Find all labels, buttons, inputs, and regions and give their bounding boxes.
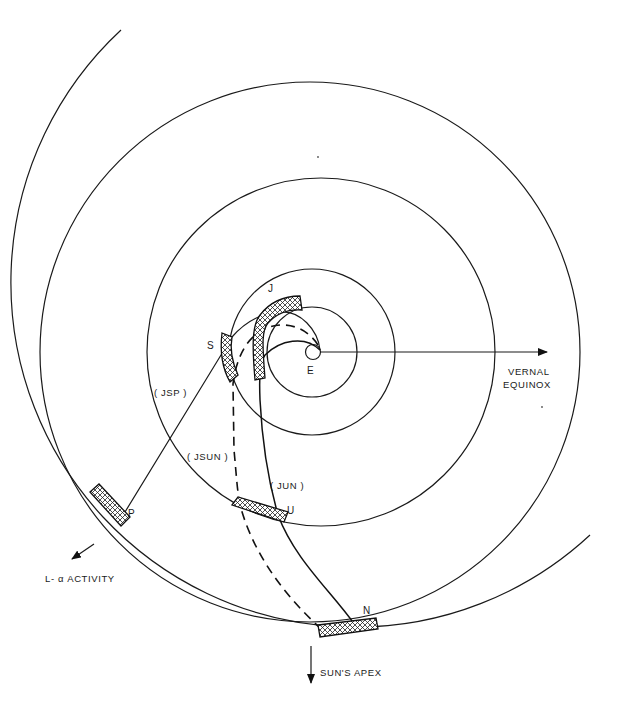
label-s: S xyxy=(207,340,214,351)
stations xyxy=(90,296,378,637)
speck xyxy=(317,156,319,158)
trajectories xyxy=(125,312,355,628)
strip-j xyxy=(253,296,302,380)
label-lyman-alpha: L- α ACTIVITY xyxy=(45,573,115,584)
strip-n xyxy=(318,618,378,637)
label-suns-apex: SUN'S APEX xyxy=(320,667,382,678)
label-j: J xyxy=(268,283,274,294)
orbits xyxy=(11,30,590,627)
label-e: E xyxy=(307,365,314,376)
strip-p xyxy=(90,484,130,526)
speck xyxy=(541,406,543,408)
label-u: U xyxy=(287,505,295,516)
orbit-earth xyxy=(306,345,321,360)
label-n: N xyxy=(363,605,371,616)
label-equinox: EQUINOX xyxy=(503,379,551,390)
label-jsp: ( JSP ) xyxy=(154,387,187,398)
orbit-5-outer-arc xyxy=(11,30,590,627)
strip-s xyxy=(221,333,238,382)
trajectory-diagram: J S E P U N ( JSP ) ( JSUN ) ( JUN ) VER… xyxy=(0,0,627,718)
lyman-alpha-arrow xyxy=(72,544,94,559)
labels: J S E P U N ( JSP ) ( JSUN ) ( JUN ) VER… xyxy=(45,283,551,678)
label-vernal: VERNAL xyxy=(508,366,550,377)
strip-u xyxy=(232,497,288,522)
label-jsun: ( JSUN ) xyxy=(187,451,228,462)
label-jun: ( JUN ) xyxy=(270,480,304,491)
label-p: P xyxy=(128,508,135,519)
